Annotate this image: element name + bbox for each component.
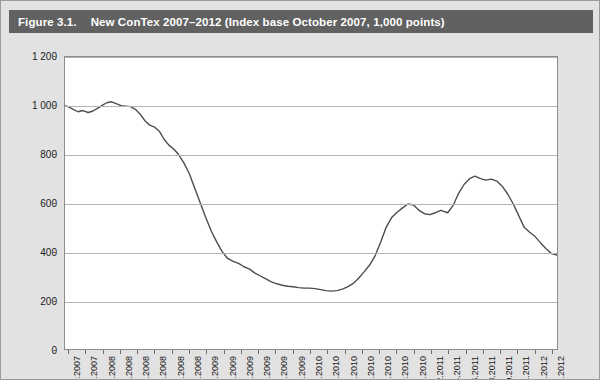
series-line-chart: [65, 57, 557, 349]
x-tick-mark: [293, 350, 294, 354]
x-tick-mark: [552, 350, 553, 354]
x-tick-label: 12.2007: [89, 356, 99, 380]
x-tick-label: 12.2010: [418, 356, 428, 380]
x-tick-mark: [362, 350, 363, 354]
x-tick-mark: [189, 350, 190, 354]
x-tick-mark: [137, 350, 138, 354]
x-tick-mark: [327, 350, 328, 354]
x-tick-mark: [448, 350, 449, 354]
figure-container: Figure 3.1. New ConTex 2007–2012 (Index …: [0, 0, 600, 380]
y-axis-labels: 02004006008001 0001 200: [1, 56, 57, 350]
y-tick-mark: [52, 154, 57, 155]
x-tick-label: 05.2009: [245, 356, 255, 380]
x-tick-mark: [258, 350, 259, 354]
x-tick-mark: [483, 350, 484, 354]
x-tick-label: 11.2009: [297, 356, 307, 380]
y-tick-mark: [52, 203, 57, 204]
x-tick-label: 10.2007: [72, 356, 82, 380]
y-tick-mark: [52, 56, 57, 57]
x-tick-label: 11.2011: [521, 356, 531, 380]
x-tick-label: 03.2012: [556, 356, 566, 380]
x-tick-label: 01.2012: [539, 356, 549, 380]
x-tick-mark: [500, 350, 501, 354]
x-tick-mark: [310, 350, 311, 354]
x-tick-mark: [120, 350, 121, 354]
gridline-600: [65, 204, 557, 205]
gridline-400: [65, 253, 557, 254]
series-polyline: [65, 102, 557, 291]
x-tick-label: 07.2009: [262, 356, 272, 380]
x-tick-mark: [431, 350, 432, 354]
x-tick-mark: [206, 350, 207, 354]
x-tick-mark: [154, 350, 155, 354]
x-tick-mark: [103, 350, 104, 354]
x-tick-label: 03.2009: [228, 356, 238, 380]
x-tick-label: 05.2010: [349, 356, 359, 380]
x-tick-mark: [535, 350, 536, 354]
gridline-1000: [65, 106, 557, 107]
x-tick-label: 01.2009: [210, 356, 220, 380]
y-tick-mark: [52, 105, 57, 106]
chart-area: 02004006008001 0001 200 10.200712.200702…: [1, 35, 600, 380]
x-tick-label: 04.2011: [452, 356, 462, 380]
x-tick-mark: [414, 350, 415, 354]
figure-title: New ConTex 2007–2012 (Index base October…: [91, 16, 445, 28]
x-tick-mark: [241, 350, 242, 354]
x-tick-label: 07.2010: [366, 356, 376, 380]
x-tick-label: 06.2008: [141, 356, 151, 380]
x-tick-mark: [172, 350, 173, 354]
x-tick-mark: [345, 350, 346, 354]
figure-number: Figure 3.1.: [18, 16, 77, 28]
x-tick-mark: [379, 350, 380, 354]
plot-frame: [64, 56, 558, 350]
x-tick-mark: [68, 350, 69, 354]
x-axis-labels: 10.200712.200702.200804.200806.200807.20…: [64, 356, 558, 380]
x-tick-label: 08.2011: [487, 356, 497, 380]
x-tick-label: 09.2009: [279, 356, 289, 380]
x-tick-label: 02.2011: [435, 356, 445, 380]
figure-title-bar: Figure 3.1. New ConTex 2007–2012 (Index …: [9, 10, 593, 33]
x-tick-mark: [275, 350, 276, 354]
y-tick-mark: [52, 301, 57, 302]
y-tick-mark: [52, 350, 57, 351]
x-tick-label: 08.2010: [383, 356, 393, 380]
x-tick-mark: [224, 350, 225, 354]
x-tick-label: 01.2010: [314, 356, 324, 380]
x-tick-label: 11.2008: [193, 356, 203, 380]
x-tick-label: 04.2008: [124, 356, 134, 380]
gridline-200: [65, 302, 557, 303]
y-tick-mark: [52, 252, 57, 253]
x-tick-label: 02.2008: [107, 356, 117, 380]
x-tick-label: 03.2010: [331, 356, 341, 380]
x-tick-mark: [466, 350, 467, 354]
x-tick-mark: [517, 350, 518, 354]
x-tick-label: 10.2010: [400, 356, 410, 380]
x-tick-label: 07.2008: [158, 356, 168, 380]
gridline-1200: [65, 57, 557, 58]
x-tick-mark: [396, 350, 397, 354]
x-tick-label: 09.2008: [176, 356, 186, 380]
x-tick-mark: [85, 350, 86, 354]
x-tick-label: 10.2011: [504, 356, 514, 380]
gridline-800: [65, 155, 557, 156]
x-tick-label: 06.2011: [470, 356, 480, 380]
